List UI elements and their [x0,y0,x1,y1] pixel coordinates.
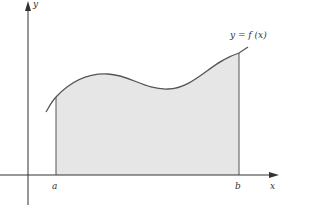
curve-label: y = f (x) [230,30,267,40]
y-axis-label: y [33,0,38,9]
shaded-area [56,53,239,175]
upper-bound-label: b [235,181,241,191]
lower-bound-label: a [52,181,57,191]
y-axis-arrow-icon [25,1,31,11]
x-axis-label: x [270,181,275,191]
x-axis-arrow-icon [269,172,279,178]
